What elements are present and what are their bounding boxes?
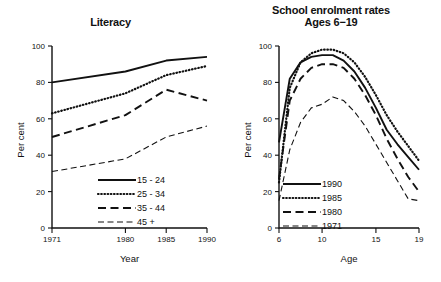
legend-label: 1971 bbox=[322, 221, 342, 231]
chart-panel-enrolment: School enrolment rates Ages 6−19 0204060… bbox=[221, 0, 441, 282]
x-tick-label: 1990 bbox=[198, 235, 216, 244]
axis-lines bbox=[279, 46, 419, 228]
y-tick-label: 40 bbox=[263, 151, 272, 160]
x-tick-label: 10 bbox=[318, 235, 327, 244]
series-line-35-44 bbox=[52, 90, 207, 137]
x-tick-label: 6 bbox=[277, 235, 282, 244]
x-tick-label: 1971 bbox=[43, 235, 61, 244]
series-line-15-24 bbox=[52, 57, 207, 82]
x-tick-label: 1980 bbox=[117, 235, 135, 244]
y-tick-label: 60 bbox=[36, 115, 45, 124]
y-tick-label: 80 bbox=[263, 78, 272, 87]
x-axis-title: Age bbox=[341, 253, 358, 264]
x-tick-label: 19 bbox=[415, 235, 424, 244]
y-tick-label: 40 bbox=[36, 151, 45, 160]
legend-label: 35 - 44 bbox=[137, 203, 165, 213]
series-line-1980 bbox=[279, 64, 419, 191]
y-tick-label: 20 bbox=[263, 188, 272, 197]
y-tick-label: 20 bbox=[36, 188, 45, 197]
y-tick-label: 100 bbox=[259, 42, 273, 51]
legend-label: 1980 bbox=[322, 207, 342, 217]
y-tick-label: 100 bbox=[32, 42, 46, 51]
y-axis-title: Per cent bbox=[242, 122, 253, 158]
plot-enrolment: 0204060801006101519AgePer cent1990198519… bbox=[221, 0, 441, 282]
legend-label: 45 + bbox=[137, 217, 155, 227]
series-line-1971 bbox=[279, 97, 419, 201]
y-tick-label: 60 bbox=[263, 115, 272, 124]
x-axis-title: Year bbox=[120, 253, 139, 264]
series-line-1985 bbox=[279, 50, 419, 183]
figure-root: Literacy 0204060801001971198019851990Yea… bbox=[0, 0, 441, 282]
legend-label: 25 - 34 bbox=[137, 189, 165, 199]
series-line-45- bbox=[52, 126, 207, 172]
series-line-1990 bbox=[279, 55, 419, 170]
y-tick-label: 80 bbox=[36, 78, 45, 87]
y-axis-title: Per cent bbox=[15, 122, 26, 158]
x-tick-label: 1985 bbox=[157, 235, 175, 244]
chart-panel-literacy: Literacy 0204060801001971198019851990Yea… bbox=[0, 0, 221, 282]
legend-label: 15 - 24 bbox=[137, 175, 165, 185]
y-tick-label: 0 bbox=[268, 224, 273, 233]
series-line-25-34 bbox=[52, 66, 207, 113]
y-tick-label: 0 bbox=[41, 224, 46, 233]
legend-label: 1990 bbox=[322, 179, 342, 189]
axis-lines bbox=[52, 46, 207, 228]
legend-label: 1985 bbox=[322, 193, 342, 203]
plot-literacy: 0204060801001971198019851990YearPer cent… bbox=[0, 0, 221, 282]
x-tick-label: 15 bbox=[371, 235, 380, 244]
